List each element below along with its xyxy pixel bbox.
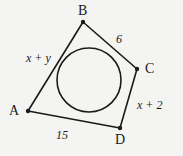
vertex-dot-c [135,67,139,71]
vertex-dot-a [26,109,30,113]
geometry-diagram: B C D A x + y 6 x + 2 15 [0,0,183,156]
diagram-canvas [0,0,183,156]
vertex-dot-d [118,126,122,130]
vertex-label-c: C [145,62,154,76]
inscribed-circle [57,48,121,112]
vertex-label-d: D [115,133,125,147]
vertex-label-a: A [9,104,19,118]
side-length-label-cd: x + 2 [137,99,162,111]
side-length-label-ab: x + y [26,52,51,64]
vertex-dot-b [81,20,85,24]
side-length-label-da: 15 [56,129,68,141]
side-length-label-bc: 6 [116,33,122,45]
vertex-label-b: B [78,4,87,18]
